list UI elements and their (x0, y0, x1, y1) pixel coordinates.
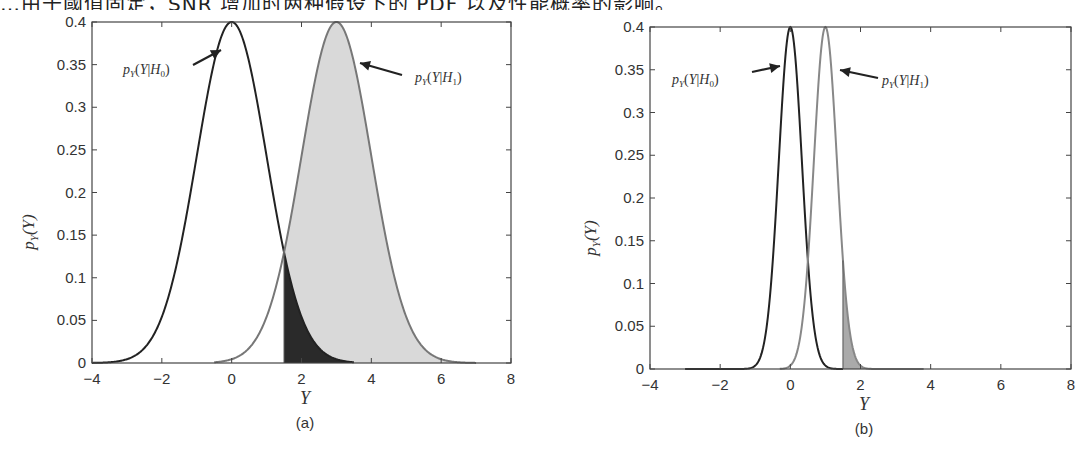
y-tick-label: 0.05 (615, 317, 644, 334)
x-tick-label: −2 (712, 376, 729, 393)
annotation-label-h1: pΥ(Υ|H1) (414, 70, 462, 87)
y-tick-label: 0.1 (65, 269, 86, 286)
y-tick-label: 0.2 (65, 184, 86, 201)
x-tick-label: −4 (641, 376, 658, 393)
annotation-label-h1: pΥ(Υ|H1) (881, 73, 929, 90)
y-tick-label: 0.3 (623, 104, 644, 121)
y-axis-label: pΥ(Υ) (581, 220, 602, 257)
chart-panel-a: −4−20246800.050.10.150.20.250.30.350.4Υ(… (19, 13, 515, 431)
chart-panel-b: −4−20246800.050.10.150.20.250.30.350.4Υ(… (581, 18, 1075, 437)
x-tick-label: 6 (437, 370, 445, 387)
panel-label: (a) (296, 414, 314, 431)
y-tick-label: 0.35 (615, 61, 644, 78)
x-tick-label: 2 (297, 370, 305, 387)
y-axis-label-text: pΥ(Υ) (19, 214, 40, 251)
x-tick-label: 4 (367, 370, 375, 387)
shaded-region-h1 (843, 260, 924, 369)
annotation-label-h0: pΥ(Υ|H0) (122, 62, 170, 79)
y-axis-label: pΥ(Υ) (19, 214, 40, 251)
y-tick-label: 0 (78, 354, 86, 371)
x-tick-label: 8 (507, 370, 515, 387)
y-tick-label: 0.3 (65, 98, 86, 115)
x-tick-label: 0 (227, 370, 235, 387)
annotation-label-h0: pΥ(Υ|H0) (671, 72, 719, 89)
y-tick-label: 0.4 (65, 13, 86, 30)
x-tick-label: 6 (997, 376, 1005, 393)
x-tick-label: −2 (153, 370, 170, 387)
x-tick-label: 8 (1067, 376, 1075, 393)
figure-canvas: −4−20246800.050.10.150.20.250.30.350.4Υ(… (0, 0, 1082, 456)
x-tick-label: 4 (926, 376, 934, 393)
x-tick-label: −4 (83, 370, 100, 387)
y-axis-label-text: pΥ(Υ) (581, 220, 602, 257)
panel-label: (b) (855, 420, 873, 437)
y-tick-label: 0 (636, 360, 644, 377)
arrowhead-icon (769, 63, 780, 73)
x-axis-label: Υ (300, 388, 312, 408)
y-tick-label: 0.2 (623, 189, 644, 206)
y-tick-label: 0.05 (57, 311, 86, 328)
x-tick-label: 2 (856, 376, 864, 393)
x-tick-label: 0 (786, 376, 794, 393)
y-tick-label: 0.25 (615, 146, 644, 163)
y-tick-label: 0.4 (623, 18, 644, 35)
y-tick-label: 0.15 (57, 226, 86, 243)
y-tick-label: 0.35 (57, 56, 86, 73)
y-tick-label: 0.25 (57, 141, 86, 158)
x-axis-label: Υ (859, 394, 871, 414)
y-tick-label: 0.15 (615, 232, 644, 249)
arrowhead-icon (840, 67, 851, 77)
y-tick-label: 0.1 (623, 275, 644, 292)
